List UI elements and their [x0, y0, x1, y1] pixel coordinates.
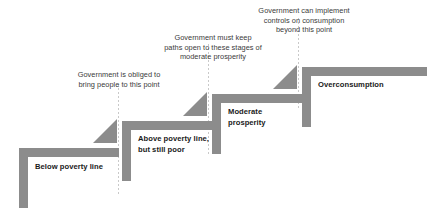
step-bar-left: [212, 94, 221, 154]
step-overconsumption[interactable]: Overconsumption: [302, 67, 427, 127]
step-below-poverty-line[interactable]: Below poverty line: [19, 148, 119, 208]
step-bar-top: [302, 67, 427, 76]
callout-consumption-controls: Government can implement controls on con…: [238, 6, 370, 35]
step-label-overconsumption: Overconsumption: [318, 80, 423, 91]
step-bar-left: [19, 148, 28, 208]
step-bar-top: [122, 121, 220, 130]
step-bar-top: [212, 94, 310, 103]
callout-government-obliged: Government is obliged to bring people to…: [58, 70, 180, 89]
riser-triangle-1: [93, 119, 117, 143]
step-label-below-poverty-line: Below poverty line: [35, 162, 121, 173]
step-bar-left: [122, 121, 131, 181]
riser-triangle-2: [183, 92, 207, 116]
stair-step-diagram: Below poverty line Above poverty line, b…: [0, 0, 442, 216]
callout-paths-open: Government must keep paths open to these…: [148, 33, 278, 62]
step-bar-top: [19, 148, 119, 157]
step-bar-left: [302, 67, 311, 127]
riser-triangle-3: [273, 65, 297, 89]
step-above-poverty-line[interactable]: Above poverty line, but still poor: [122, 121, 220, 181]
step-moderate-prosperity[interactable]: Moderate prosperity: [212, 94, 310, 154]
